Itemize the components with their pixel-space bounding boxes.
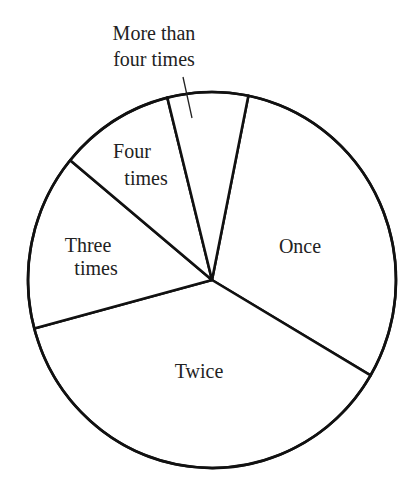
- label-three-times-line2: times: [74, 257, 118, 279]
- label-once: Once: [279, 235, 321, 257]
- label-more-than-four-line1: More than: [113, 22, 196, 44]
- label-three-times-line1: Three: [65, 234, 112, 256]
- pie-chart: More than four times Four times Three ti…: [0, 0, 412, 488]
- label-twice: Twice: [175, 360, 224, 382]
- label-four-times-line2: times: [124, 167, 168, 189]
- label-four-times-line1: Four: [113, 140, 151, 162]
- pie-slices: [28, 92, 396, 468]
- label-more-than-four-line2: four times: [113, 48, 195, 70]
